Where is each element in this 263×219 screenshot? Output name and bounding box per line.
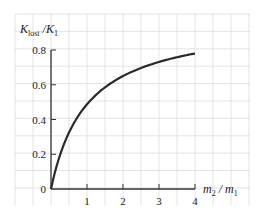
y-tick-label: 0.6 xyxy=(32,79,46,91)
y-tick-label: 0.4 xyxy=(32,114,46,126)
tick-labels: 00.20.40.60.81234 xyxy=(32,44,198,207)
y-axis-label: Klost /K1 xyxy=(19,22,58,38)
grid xyxy=(15,14,250,205)
x-tick-label: 3 xyxy=(156,195,162,207)
x-tick-label: 4 xyxy=(192,195,198,207)
x-axis-label: m2 / m1 xyxy=(203,182,238,198)
x-tick-label: 1 xyxy=(84,195,90,207)
y-tick-label: 0.8 xyxy=(32,44,46,56)
x-tick-label: 2 xyxy=(120,195,126,207)
y-tick-label: 0 xyxy=(41,183,47,195)
y-tick-label: 0.2 xyxy=(32,148,46,160)
chart-canvas: 00.20.40.60.81234 Klost /K1 m2 / m1 xyxy=(0,0,263,219)
